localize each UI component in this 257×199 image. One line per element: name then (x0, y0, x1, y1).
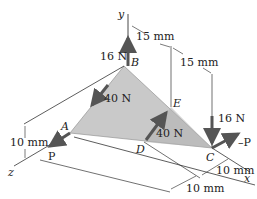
force-16n-up-label: 16 N (100, 50, 127, 63)
statics-diagram: y z x B A C D E 16 N 40 N 40 N 16 N P –P… (0, 0, 257, 199)
dim-10mm-right-label: 10 mm (216, 164, 255, 177)
force-40n-ab-label: 40 N (104, 92, 131, 105)
dim-10mm-bottom-label: 10 mm (186, 182, 225, 195)
point-d-label: D (135, 143, 145, 156)
z-axis-label: z (7, 166, 14, 179)
point-e-label: E (172, 97, 181, 110)
dim-15mm-right-label: 15 mm (180, 56, 219, 69)
dim-10mm-left-label: 10 mm (10, 136, 49, 149)
force-40n-de-label: 40 N (156, 127, 183, 140)
extension-line-a (40, 160, 170, 192)
dim-arrow-15-mid2 (173, 48, 183, 54)
extension-line-d (144, 142, 200, 178)
point-a-label: A (60, 120, 69, 133)
x-axis (74, 137, 255, 185)
dim-15mm-left-label: 15 mm (136, 30, 175, 43)
point-c-label: C (206, 151, 215, 164)
force-neg-p-arrow (212, 134, 238, 148)
y-axis-label: y (117, 8, 125, 21)
point-b-label: B (130, 56, 139, 69)
diagram-canvas: y z x B A C D E 16 N 40 N 40 N 16 N P –P… (0, 0, 257, 199)
force-16n-down-label: 16 N (218, 112, 245, 125)
dim-arrow-15-mid (160, 44, 170, 47)
force-neg-p-label: –P (238, 136, 252, 149)
force-p-arrow (50, 133, 70, 146)
force-p-label: P (48, 150, 56, 163)
